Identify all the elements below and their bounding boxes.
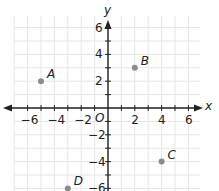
point-label-a: A <box>47 68 55 80</box>
x-tick-label: −6 <box>21 114 39 126</box>
y-tick-label: −6 <box>88 182 106 191</box>
origin-label: O <box>95 112 104 124</box>
coordinate-plane <box>0 0 219 191</box>
x-tick-label: 2 <box>131 114 139 126</box>
point-label-c: C <box>168 149 176 161</box>
point-c <box>159 159 165 165</box>
point-label-d: D <box>74 175 83 187</box>
x-axis-arrow-right-icon <box>194 105 203 112</box>
y-axis-label: y <box>104 4 111 16</box>
x-tick-label: −4 <box>47 114 65 126</box>
y-tick-label: 4 <box>95 48 103 60</box>
point-a <box>38 78 44 84</box>
y-tick-label: −4 <box>88 156 106 168</box>
y-tick-label: 2 <box>95 75 103 87</box>
point-b <box>132 65 138 71</box>
x-axis-label: x <box>205 100 212 112</box>
y-tick-label: −2 <box>88 129 106 141</box>
x-tick-label: −2 <box>74 114 92 126</box>
x-tick-label: 6 <box>185 114 193 126</box>
x-tick-label: 4 <box>158 114 166 126</box>
point-label-b: B <box>141 55 149 67</box>
x-axis-arrow-left-icon <box>3 105 12 112</box>
y-tick-label: 6 <box>95 22 103 34</box>
point-d <box>65 185 71 191</box>
